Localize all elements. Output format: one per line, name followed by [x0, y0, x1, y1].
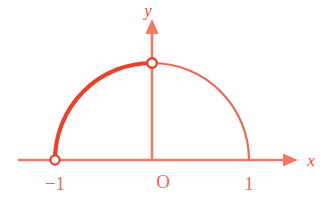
x-tick-label-minus-one: −1	[45, 173, 65, 194]
y-axis-label: y	[142, 1, 152, 20]
open-point-marker-left	[50, 155, 59, 164]
x-axis-arrowhead	[283, 154, 298, 167]
arc-right-half	[152, 63, 249, 160]
open-point-marker-top	[147, 58, 157, 68]
arc-left-half-bold	[55, 63, 152, 160]
figure-container: y x O −1 1	[0, 0, 331, 211]
semicircle-diagram: y x O −1 1	[0, 0, 331, 211]
origin-label: O	[156, 171, 170, 192]
y-axis-arrowhead	[145, 19, 158, 34]
x-tick-label-one: 1	[244, 173, 254, 194]
x-axis-label: x	[306, 151, 315, 170]
